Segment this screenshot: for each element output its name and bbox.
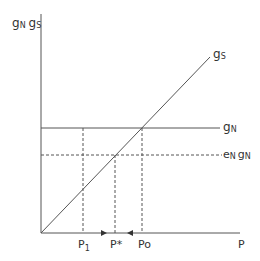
gs-line	[41, 57, 210, 233]
p1-label: P1	[78, 238, 90, 253]
x-axis-label: P	[238, 238, 245, 251]
po-label: Po	[138, 238, 151, 251]
arrow-left-icon	[127, 230, 133, 236]
gn-label: gN	[223, 120, 237, 134]
pstar-label: P*	[110, 238, 123, 251]
growth-rate-diagram: gNgS gS gN eNgN P1 P* Po P	[0, 0, 260, 261]
en-gn-label: eNgN	[223, 148, 251, 161]
arrow-right-icon	[101, 230, 107, 236]
gs-label: gS	[213, 47, 226, 61]
y-axis-label: gNgS	[12, 16, 41, 30]
